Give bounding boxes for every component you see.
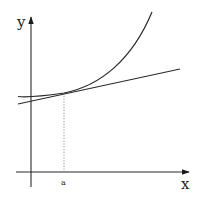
tangent-line — [18, 69, 180, 104]
point-a-label: a — [61, 178, 66, 187]
diagram-canvas: y x a — [0, 0, 200, 202]
y-axis-label: y — [16, 13, 26, 31]
tangent-diagram: y x a — [0, 0, 200, 202]
convex-curve — [18, 12, 152, 97]
x-axis-label: x — [181, 175, 190, 193]
